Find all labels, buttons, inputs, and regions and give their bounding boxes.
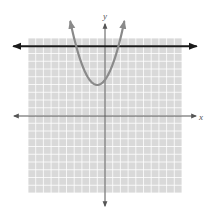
x-axis-label: x (198, 112, 203, 122)
coordinate-plane: x y (0, 0, 212, 216)
y-axis-label: y (102, 11, 107, 21)
